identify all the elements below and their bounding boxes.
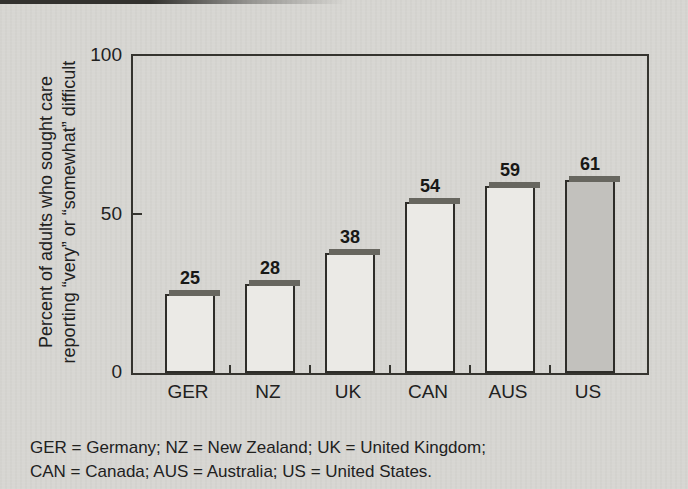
plot-area: 252838545961	[131, 54, 649, 375]
bar-group-aus: 59	[485, 161, 535, 373]
bar-group-can: 54	[405, 177, 455, 373]
x-axis-label-us: US	[548, 381, 628, 403]
y-tick-label-100: 100	[62, 44, 122, 66]
bar-us	[565, 180, 615, 373]
bar-top-shadow	[489, 182, 540, 188]
bar-aus	[485, 186, 535, 373]
y-tick-label-0: 0	[62, 361, 122, 383]
bar-group-nz: 28	[245, 259, 295, 373]
bar-value-label-ger: 25	[180, 269, 200, 287]
y-axis-title-line1: Percent of adults who sought care	[35, 38, 58, 386]
x-tick-mark	[469, 365, 471, 373]
x-axis-label-aus: AUS	[468, 381, 548, 403]
x-axis-label-ger: GER	[148, 381, 228, 403]
bar-ger	[165, 294, 215, 373]
x-tick-mark	[549, 365, 551, 373]
x-axis-label-uk: UK	[308, 381, 388, 403]
bar-group-ger: 25	[165, 269, 215, 373]
bar-can	[405, 202, 455, 373]
bar-uk	[325, 253, 375, 373]
bar-value-label-us: 61	[580, 155, 600, 173]
x-tick-mark	[229, 365, 231, 373]
y-tick-label-50: 50	[62, 203, 122, 225]
bar-top-shadow	[329, 249, 380, 255]
bar-group-us: 61	[565, 155, 615, 373]
scanned-page-background: Percent of adults who sought care report…	[0, 0, 688, 489]
x-axis-label-can: CAN	[388, 381, 468, 403]
bar-value-label-can: 54	[420, 177, 440, 195]
x-axis-labels: GERNZUKCANAUSUS	[131, 381, 649, 403]
footnote: GER = Germany; NZ = New Zealand; UK = Un…	[30, 436, 486, 484]
scan-artifact-strip	[0, 0, 345, 4]
x-tick-mark	[389, 365, 391, 373]
x-axis-label-nz: NZ	[228, 381, 308, 403]
bars-layer: 252838545961	[133, 56, 647, 373]
bar-top-shadow	[249, 280, 300, 286]
bar-value-label-aus: 59	[500, 161, 520, 179]
footnote-line1: GER = Germany; NZ = New Zealand; UK = Un…	[30, 436, 486, 460]
x-tick-mark	[309, 365, 311, 373]
bar-group-uk: 38	[325, 228, 375, 373]
bar-value-label-uk: 38	[340, 228, 360, 246]
footnote-line2: CAN = Canada; AUS = Australia; US = Unit…	[30, 460, 486, 484]
bar-nz	[245, 284, 295, 373]
bar-value-label-nz: 28	[260, 259, 280, 277]
bar-top-shadow	[569, 176, 620, 182]
bar-top-shadow	[169, 290, 220, 296]
bar-top-shadow	[409, 198, 460, 204]
